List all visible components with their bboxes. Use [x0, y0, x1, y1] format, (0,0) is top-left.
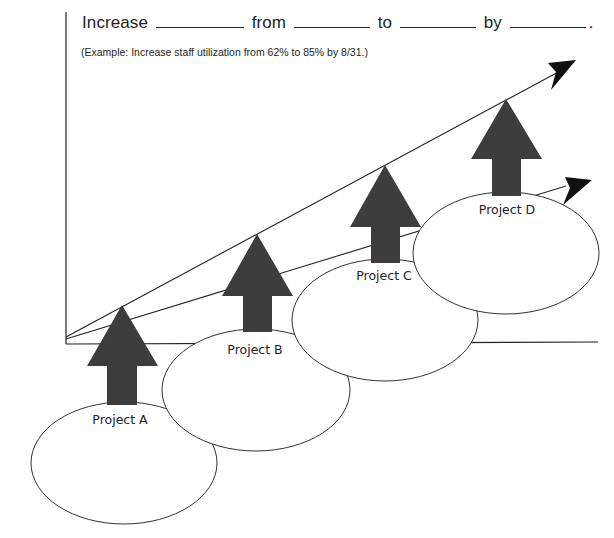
project-d-label: Project D	[479, 202, 535, 217]
project-b-label: Project B	[227, 342, 282, 357]
project-a-label: Project A	[92, 412, 147, 427]
project-c-label: Project C	[356, 268, 411, 283]
project-diagram	[0, 0, 614, 538]
project-b-up-arrow-icon	[222, 234, 293, 332]
lower-trend-arrowhead-icon	[563, 177, 592, 205]
